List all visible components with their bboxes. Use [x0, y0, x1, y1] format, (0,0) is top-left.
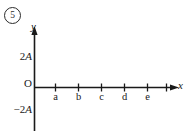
y-tick-label-origin: O	[6, 77, 32, 89]
y-tick-minus2a-symbol: A	[25, 103, 32, 115]
x-tick-label-e: e	[142, 91, 154, 102]
y-tick-label-2a: 2A	[6, 50, 32, 62]
x-tick-label-d: d	[119, 91, 131, 102]
x-axis-label: x	[178, 79, 183, 91]
origin-letter: O	[24, 77, 32, 89]
physics-axes-figure: 5 y x 2A O −2A a b c d e	[0, 0, 187, 132]
y-axis-label: y	[31, 20, 36, 32]
y-tick-2a-symbol: A	[25, 50, 32, 62]
x-tick-label-a: a	[50, 91, 62, 102]
x-tick-label-b: b	[73, 91, 85, 102]
x-tick-label-c: c	[96, 91, 108, 102]
y-tick-minus2a-number: −2	[14, 103, 26, 115]
y-tick-label-minus-2a: −2A	[1, 103, 32, 115]
